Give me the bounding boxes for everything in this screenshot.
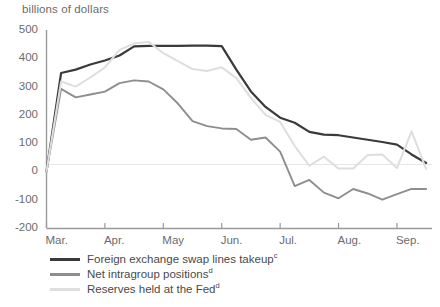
x-axis-tick-label: Jun. bbox=[221, 234, 243, 246]
legend-item[interactable]: Net intragroup positionsd bbox=[50, 267, 440, 282]
chart-series-group bbox=[47, 42, 427, 200]
legend-swatch-icon bbox=[50, 288, 80, 291]
chart-series-line bbox=[47, 46, 427, 172]
x-axis-tick-label: Mar. bbox=[46, 234, 68, 246]
x-axis-tick-label: Apr. bbox=[104, 234, 124, 246]
y-axis-tick-label: -200 bbox=[2, 221, 38, 233]
x-axis-tick-label: Aug. bbox=[338, 234, 362, 246]
y-axis-tick-label: -100 bbox=[2, 193, 38, 205]
legend-footnote-marker: c bbox=[274, 251, 278, 260]
legend-swatch-icon bbox=[50, 273, 80, 276]
y-axis-tick-label: 300 bbox=[2, 80, 38, 92]
y-axis-tick-label: 500 bbox=[2, 23, 38, 35]
legend-item[interactable]: Foreign exchange swap lines takeupc bbox=[50, 252, 440, 267]
legend-item[interactable]: Reserves held at the Fedd bbox=[50, 282, 440, 297]
chart-figure: billions of dollars 5004003002001000-100… bbox=[0, 0, 440, 307]
y-axis-tick-label: 400 bbox=[2, 51, 38, 63]
legend-item-label: Reserves held at the Fedd bbox=[87, 283, 220, 296]
chart-legend: Foreign exchange swap lines takeupcNet i… bbox=[50, 252, 440, 297]
legend-footnote-marker: d bbox=[208, 266, 212, 275]
legend-item-label: Foreign exchange swap lines takeupc bbox=[87, 253, 277, 266]
legend-footnote-marker: d bbox=[216, 281, 220, 290]
y-axis-tick-label: 0 bbox=[2, 164, 38, 176]
y-axis-tick-label: 200 bbox=[2, 108, 38, 120]
x-axis-tick-label: May bbox=[162, 234, 184, 246]
legend-swatch-icon bbox=[50, 258, 80, 261]
y-axis-tick-label: 100 bbox=[2, 136, 38, 148]
x-axis-ticks bbox=[47, 223, 397, 228]
x-axis-tick-label: Jul. bbox=[279, 234, 297, 246]
legend-item-label: Net intragroup positionsd bbox=[87, 268, 213, 281]
x-axis-tick-label: Sep. bbox=[396, 234, 420, 246]
